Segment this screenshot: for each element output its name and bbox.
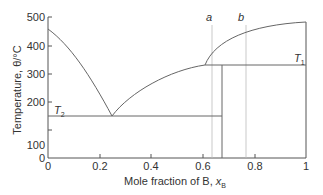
- label-a: a: [206, 11, 212, 23]
- x-tick-0.6: 0.6: [195, 160, 210, 172]
- y-tick-300: 300: [27, 68, 45, 80]
- x-tick-0.2: 0.2: [92, 160, 107, 172]
- liquidus-b-curve: [205, 22, 306, 65]
- x-tick-0.8: 0.8: [247, 160, 262, 172]
- y-tick-400: 400: [27, 40, 45, 52]
- x-tick-0: 0: [45, 160, 51, 172]
- liquidus-a-curve: [48, 29, 112, 116]
- y-tick-100: 100: [27, 139, 45, 151]
- phase-diagram: 500 400 300 200 100 0 0 0.2 0.4 0.6 0.8 …: [0, 0, 323, 195]
- label-b: b: [238, 11, 244, 23]
- label-t2: T2: [54, 104, 65, 118]
- y-axis-label: Temperature, θ/°C: [11, 45, 23, 134]
- y-ticks: [48, 17, 52, 130]
- x-axis-label: Mole fraction of B, xB: [124, 175, 226, 189]
- y-tick-500: 500: [27, 11, 45, 23]
- x-tick-0.4: 0.4: [143, 160, 158, 172]
- liquidus-compound-curve: [112, 65, 205, 116]
- x-tick-1: 1: [303, 160, 309, 172]
- label-t1: T1: [294, 52, 305, 66]
- x-ticks: [100, 154, 255, 158]
- y-tick-200: 200: [27, 96, 45, 108]
